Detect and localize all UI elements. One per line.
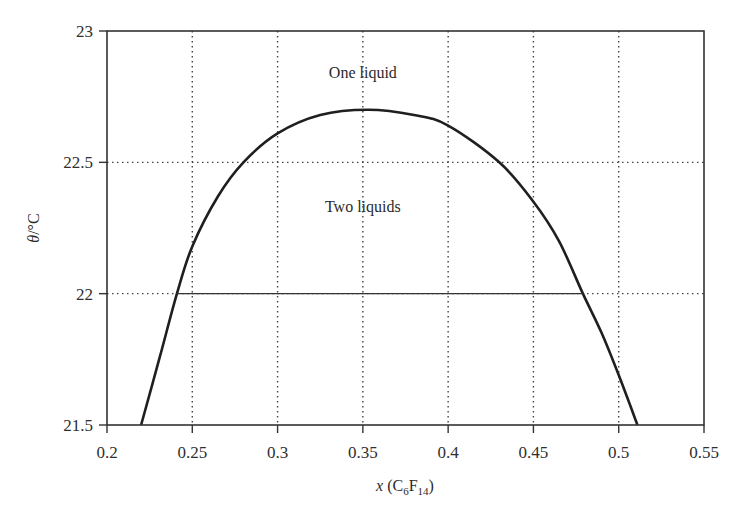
coexistence-curve [141,110,637,425]
x-tick-label: 0.3 [267,443,288,462]
annotation-one-liquid: One liquid [329,64,397,82]
x-tick-label: 0.4 [438,443,460,462]
y-axis-label: θ/°C [25,213,42,242]
y-tick-label: 22.5 [63,153,93,172]
x-axis-label: x (C6F14) [375,477,434,497]
annotation-two-liquids: Two liquids [325,198,401,216]
axis-ticks: 0.20.250.30.350.40.450.50.5521.52222.523 [63,22,719,462]
x-tick-label: 0.2 [96,443,117,462]
y-tick-label: 22 [76,285,93,304]
y-tick-label: 21.5 [63,416,93,435]
x-tick-label: 0.45 [519,443,549,462]
x-tick-label: 0.35 [348,443,378,462]
data-series [141,110,637,425]
phase-diagram-chart: 0.20.250.30.350.40.450.50.5521.52222.523… [0,0,740,515]
y-tick-label: 23 [76,22,93,41]
x-tick-label: 0.55 [689,443,719,462]
x-tick-label: 0.5 [608,443,629,462]
x-tick-label: 0.25 [177,443,207,462]
